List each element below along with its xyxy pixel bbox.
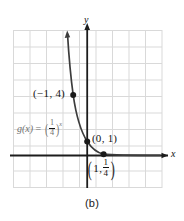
x-axis-arrow — [162, 153, 169, 158]
function-name: g(x) — [17, 123, 33, 134]
fraction-one-quarter: 14 — [103, 158, 110, 178]
point-0-1 — [84, 139, 90, 145]
point-neg1-4 — [70, 92, 76, 98]
paren-close-icon: ) — [111, 158, 115, 180]
y-axis-label: y — [84, 14, 88, 25]
point-label-0-1-close: ) — [113, 132, 117, 144]
function-equals: = — [36, 123, 42, 134]
function-base-numerator: 1 — [49, 119, 55, 127]
function-base-denominator: 4 — [49, 129, 55, 137]
point-label-neg1-4: (−1, 4) — [33, 88, 65, 99]
figure-page: y x (−1, 4) (0, 1) (1,14) g(x) = (14)x (… — [0, 0, 184, 221]
function-base-fraction: 14 — [49, 119, 55, 137]
data-points — [70, 92, 106, 157]
paren-open-icon: ( — [88, 158, 92, 180]
function-equation-label: g(x) = (14)x — [17, 120, 63, 138]
fraction-numerator: 1 — [103, 158, 110, 167]
point-label-0-1: (0, 1) — [92, 133, 117, 144]
point-label-neg1-4-x: −1, — [37, 87, 53, 99]
fraction-denominator: 4 — [103, 169, 110, 178]
point-label-neg1-4-close: ) — [61, 87, 65, 99]
graph-figure: y x (−1, 4) (0, 1) (1,14) g(x) = (14)x — [0, 0, 184, 196]
figure-caption: (b) — [0, 197, 184, 209]
function-exponent: x — [59, 120, 62, 127]
func-paren-open-icon: ( — [45, 121, 48, 137]
point-label-1-quarter: (1,14) — [86, 158, 116, 180]
curve-arrow — [65, 31, 71, 39]
point-label-1-quarter-x: 1, — [93, 162, 102, 174]
point-label-0-1-x: 0, — [96, 132, 105, 144]
x-axis-label: x — [171, 148, 175, 159]
